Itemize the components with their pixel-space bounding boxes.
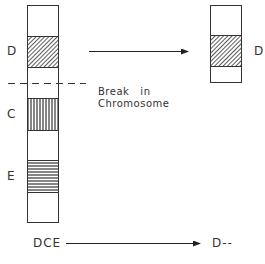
label-band-c: C <box>7 108 15 120</box>
break-annotation-line1: Break in <box>98 86 169 98</box>
break-annotation-line2: Chromosome <box>98 98 169 110</box>
left-chromosome <box>28 6 59 223</box>
right-chromosome <box>211 6 242 83</box>
diagram-canvas <box>0 0 265 264</box>
band-d-right <box>211 36 242 67</box>
label-band-d-right: D <box>254 45 263 57</box>
sequence-before: DCE <box>33 237 61 249</box>
band-d-left <box>28 37 59 68</box>
label-band-e: E <box>7 170 15 182</box>
band-e <box>28 161 59 193</box>
band-c <box>28 99 59 131</box>
break-annotation: Break in Chromosome <box>98 86 169 110</box>
sequence-after: D-- <box>212 237 233 249</box>
label-band-d-left: D <box>7 45 16 57</box>
